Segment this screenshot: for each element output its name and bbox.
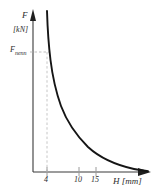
y-axis-arrow-icon [30, 9, 36, 21]
nominal-force-annotation-label: Fnenn [10, 46, 27, 56]
force-stroke-curve [47, 11, 148, 171]
y-axis-unit-label: [kN] [13, 26, 28, 34]
x-tick-label-4: 4 [44, 176, 48, 184]
force-stroke-chart: F [kN] Fnenn 4 10 15 H [mm] [0, 0, 157, 194]
x-tick-label-10: 10 [74, 176, 82, 184]
x-tick-label-15: 15 [91, 176, 99, 184]
x-axis-label: H [mm] [113, 177, 142, 186]
y-axis-symbol-label: F [22, 11, 28, 20]
nominal-force-subscript: nenn [15, 50, 27, 56]
